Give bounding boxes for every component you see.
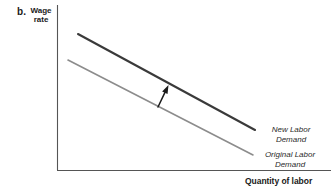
new-labor-demand-label: New Labor Demand [258,125,324,145]
new-labor-demand-label-line2: Demand [258,135,324,145]
new-labor-demand-label-line1: New Labor [258,125,324,135]
original-labor-demand-label-line2: Demand [252,160,328,170]
panel-letter: b. [17,7,26,18]
y-axis-title-line1: Wage [26,6,56,15]
original-labor-demand-label-line1: Original Labor [252,150,328,160]
original-labor-demand-curve [68,60,253,155]
y-axis-title-line2: rate [26,15,56,24]
original-labor-demand-label: Original Labor Demand [252,150,328,170]
x-axis-title: Quantity of labor [245,177,312,186]
y-axis-title: Wage rate [26,6,56,25]
figure-root: b. Wage rate New Labor Demand Original L… [0,0,331,192]
new-labor-demand-curve [78,34,255,130]
shift-arrow-icon [158,85,169,107]
